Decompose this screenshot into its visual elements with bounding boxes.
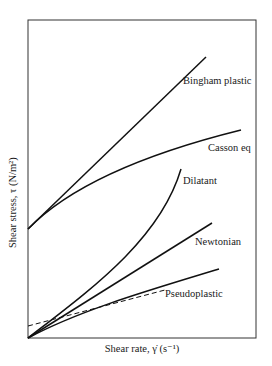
y-axis-label: Shear stress, τ (N/m²) <box>7 157 18 248</box>
label-bingham-plastic: Bingham plastic <box>183 75 252 86</box>
label-casson-eq: Casson eq <box>208 142 251 153</box>
series-dilatant <box>28 169 181 338</box>
label-dilatant: Dilatant <box>183 175 217 186</box>
label-newtonian: Newtonian <box>195 236 241 247</box>
label-pseudoplastic: Pseudoplastic <box>165 288 223 299</box>
series-bingham-plastic <box>28 57 206 229</box>
series-newtonian <box>28 223 212 338</box>
series-pseudoplastic <box>28 269 219 338</box>
x-axis-label: Shear rate, γ̇ (s⁻¹) <box>0 342 272 354</box>
rheology-chart <box>0 0 272 366</box>
